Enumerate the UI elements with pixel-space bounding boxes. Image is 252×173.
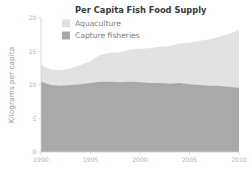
fish-food-supply-area-chart: 05101520 19901995200020052010 Kilograms … xyxy=(0,0,252,173)
y-tick-label: 15 xyxy=(29,48,37,55)
area-capture-fisheries xyxy=(41,82,239,152)
x-tick-label: 1995 xyxy=(83,156,99,163)
chart-title: Per Capita Fish Food Supply xyxy=(75,5,207,15)
x-tick-label: 2005 xyxy=(182,156,198,163)
x-tick-label: 1990 xyxy=(33,156,49,163)
y-tick-label: 10 xyxy=(29,81,37,88)
y-axis-title: Kilograms per capita xyxy=(7,47,16,124)
x-tick-label: 2000 xyxy=(132,156,148,163)
legend-label-aquaculture: Aquaculture xyxy=(75,19,121,28)
y-tick-label: 20 xyxy=(29,14,37,21)
legend-swatch-aquaculture xyxy=(62,20,70,28)
x-tick-label: 2010 xyxy=(231,156,247,163)
y-tick-label: 0 xyxy=(33,148,37,155)
y-tick-label: 5 xyxy=(33,115,37,122)
legend-swatch-capture-fisheries xyxy=(62,32,70,40)
y-axis-ticks: 05101520 xyxy=(29,14,41,155)
x-axis-ticks: 19901995200020052010 xyxy=(33,152,247,163)
chart-figure: 05101520 19901995200020052010 Kilograms … xyxy=(0,0,252,173)
legend-label-capture-fisheries: Capture fisheries xyxy=(75,31,140,40)
